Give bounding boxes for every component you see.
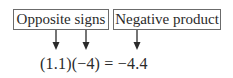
equals-sign: = [100, 55, 118, 72]
negative-product-label: Negative product [113, 9, 221, 30]
opposite-signs-label: Opposite signs [13, 9, 109, 30]
equation: (1.1)(−4) = −4.4 [40, 55, 148, 73]
arrow-down-icon [51, 30, 61, 51]
result: −4.4 [118, 55, 148, 72]
arrow-down-icon [132, 30, 142, 51]
factor-2: (−4) [72, 55, 100, 72]
arrow-down-icon [81, 30, 91, 51]
factor-1: (1.1) [40, 55, 72, 72]
